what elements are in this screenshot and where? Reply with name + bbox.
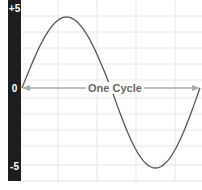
y-tick-plus5: +5 — [8, 3, 21, 15]
y-tick-minus5: -5 — [8, 161, 21, 173]
plot-area — [0, 0, 202, 190]
y-tick-zero: 0 — [8, 83, 21, 95]
sine-wave-chart: +5 0 -5 One Cycle — [0, 0, 202, 190]
one-cycle-label: One Cycle — [86, 82, 144, 94]
